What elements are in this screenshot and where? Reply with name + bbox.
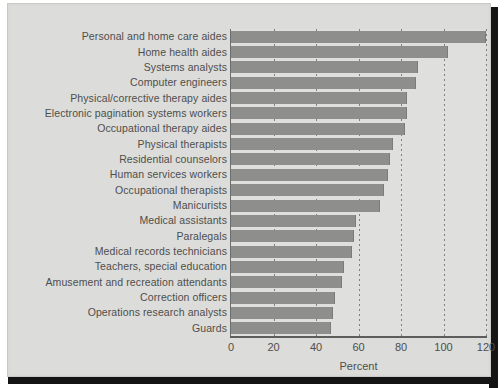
bar[interactable] [231,215,356,227]
figure-panel-inner: Personal and home care aidesHome health … [10,6,488,374]
bar-row[interactable] [231,261,486,273]
category-label: Amusement and recreation attendants [12,276,227,288]
bar[interactable] [231,200,380,212]
bar-row[interactable] [231,215,486,227]
x-tick-label-100: 100 [424,341,464,353]
bar-row[interactable] [231,92,486,104]
bar-row[interactable] [231,123,486,135]
bar[interactable] [231,46,448,58]
y-axis-line [230,29,231,337]
category-label: Medical records technicians [12,245,227,257]
bar-row[interactable] [231,153,486,165]
figure-root: Personal and home care aidesHome health … [0,0,504,388]
bar-row[interactable] [231,246,486,258]
bar[interactable] [231,169,388,181]
bar[interactable] [231,184,384,196]
gridline-80 [401,29,402,336]
bar[interactable] [231,246,352,258]
category-label: Physical/corrective therapy aides [12,92,227,104]
bar-row[interactable] [231,200,486,212]
x-tick-label-80: 80 [381,341,421,353]
bar[interactable] [231,77,416,89]
category-label: Manicurists [12,199,227,211]
bar-row[interactable] [231,307,486,319]
bar-row[interactable] [231,46,486,58]
gridline-40 [316,29,317,336]
gridline-120 [486,29,487,336]
bar[interactable] [231,61,418,73]
category-label: Home health aides [12,46,227,58]
category-label: Computer engineers [12,76,227,88]
category-label: Paralegals [12,230,227,242]
bar-row[interactable] [231,322,486,334]
bar-row[interactable] [231,77,486,89]
bar-row[interactable] [231,169,486,181]
x-tick-label-20: 20 [254,341,294,353]
gridline-100 [444,29,445,336]
category-label: Occupational therapists [12,184,227,196]
x-axis-title: Percent [231,360,486,372]
bar[interactable] [231,153,390,165]
bar[interactable] [231,31,486,43]
bar-row[interactable] [231,107,486,119]
category-label: Occupational therapy aides [12,122,227,134]
category-label: Operations research analysts [12,306,227,318]
category-label: Personal and home care aides [12,30,227,42]
bar[interactable] [231,123,405,135]
category-label: Physical therapists [12,138,227,150]
bar-row[interactable] [231,184,486,196]
figure-panel: Personal and home care aidesHome health … [7,3,491,377]
x-axis-line [230,336,487,338]
bar[interactable] [231,138,393,150]
bar-row[interactable] [231,292,486,304]
bar-row[interactable] [231,31,486,43]
bar-row[interactable] [231,138,486,150]
category-label: Human services workers [12,168,227,180]
bar-row[interactable] [231,61,486,73]
category-label: Residential counselors [12,153,227,165]
bar[interactable] [231,276,342,288]
bar[interactable] [231,292,335,304]
category-label: Medical assistants [12,214,227,226]
bar[interactable] [231,261,344,273]
bar-row[interactable] [231,230,486,242]
x-tick-label-120: 120 [466,341,504,353]
bar[interactable] [231,92,407,104]
x-tick-label-40: 40 [296,341,336,353]
bar[interactable] [231,322,331,334]
category-label: Teachers, special education [12,260,227,272]
category-label: Systems analysts [12,61,227,73]
gridline-60 [359,29,360,336]
category-label: Guards [12,322,227,334]
bar-row[interactable] [231,276,486,288]
bar[interactable] [231,307,333,319]
category-label: Electronic pagination systems workers [12,107,227,119]
x-tick-label-60: 60 [339,341,379,353]
category-label: Correction officers [12,291,227,303]
plot-area: 020406080100120 Percent [231,29,486,336]
gridline-20 [274,29,275,336]
x-tick-label-0: 0 [211,341,251,353]
bar[interactable] [231,107,407,119]
bar[interactable] [231,230,354,242]
